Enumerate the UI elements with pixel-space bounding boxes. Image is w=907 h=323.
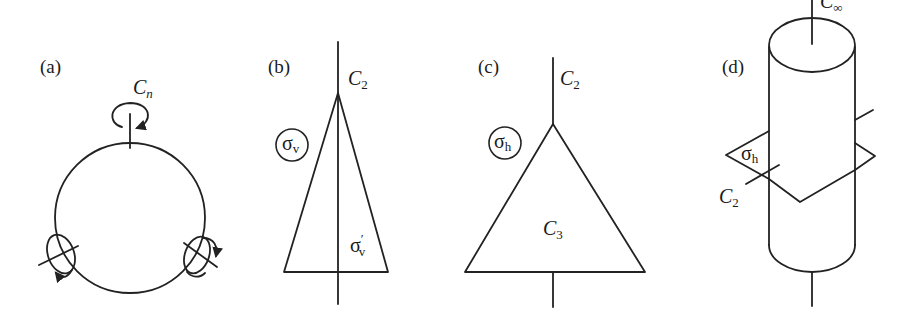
c2-label: C2	[719, 185, 739, 210]
cn-axis-top: Cn	[112, 76, 153, 148]
c2-axis-left	[746, 165, 779, 184]
panel-c: (c) C2 σh C3	[465, 56, 645, 307]
c2-label: C2	[560, 67, 580, 92]
cylinder	[769, 18, 855, 272]
c2-axis-right	[855, 110, 873, 120]
cinf-label: C∞	[820, 0, 843, 15]
sigma-h-circled: σh	[489, 127, 521, 159]
c2-axis-lower-left	[39, 231, 80, 277]
panel-d: (d) C∞ σh C2	[719, 0, 875, 306]
panel-a: (a) Cn	[39, 56, 217, 293]
c2-label: C2	[348, 67, 368, 92]
panel-label-a: (a)	[40, 56, 61, 78]
cn-label: Cn	[133, 76, 153, 101]
svg-text:σv: σv	[282, 132, 300, 156]
molecule-circle	[55, 143, 205, 293]
svg-text:σh: σh	[494, 130, 512, 154]
c3-label: C3	[543, 217, 563, 242]
narrow-triangle	[284, 93, 388, 272]
equilateral-triangle	[465, 124, 645, 272]
sigma-v-prime-label: σ′v	[350, 231, 366, 259]
sigma-h-label: σh	[741, 142, 759, 166]
panel-label-b: (b)	[268, 56, 290, 78]
symmetry-elements-figure: (a) Cn (b) C2	[0, 0, 907, 323]
panel-label-c: (c)	[478, 56, 499, 78]
panel-label-d: (d)	[722, 56, 744, 78]
panel-b: (b) C2 σv σ′v	[268, 42, 388, 304]
sigma-v-circled: σv	[276, 129, 308, 161]
